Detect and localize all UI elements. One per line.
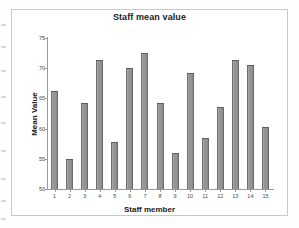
bar [187,73,194,189]
x-axis-tick-label: 8 [158,193,161,199]
bar [217,107,224,189]
figure-page: Staff mean value Mean Value 505560657075… [0,0,299,228]
x-axis-tick-label: 13 [232,193,238,199]
x-axis-tick-label: 9 [174,193,177,199]
bar [172,153,179,189]
plot-area: Mean Value 505560657075 [47,38,273,189]
scan-artifact [1,122,6,124]
x-axis-tick-mark [265,189,266,192]
x-axis-tick-label: 1 [53,193,56,199]
bar [81,103,88,189]
chart-title: Staff mean value [0,12,299,22]
x-axis-tick-label: 6 [128,193,131,199]
x-axis-tick-mark [190,189,191,192]
x-axis-tick-mark [115,189,116,192]
x-axis-tick-mark [70,189,71,192]
x-axis-label: Staff member [0,205,299,214]
scan-artifact [1,150,6,152]
bar [111,142,118,189]
bar [157,103,164,189]
x-axis-tick-mark [55,189,56,192]
scan-artifact [1,96,6,98]
y-axis-tick-mark [44,159,47,160]
x-axis-tick-label: 2 [68,193,71,199]
bar [247,65,254,189]
scan-artifact [1,24,6,26]
bar [262,127,269,189]
x-axis-tick-label: 7 [143,193,146,199]
bar [51,91,58,189]
x-axis-tick-mark [175,189,176,192]
scan-artifact [1,178,6,180]
x-axis-tick-label: 12 [217,193,223,199]
bar [126,68,133,189]
x-axis-tick-mark [220,189,221,192]
x-axis-tick-label: 5 [113,193,116,199]
x-axis-tick-label: 4 [98,193,101,199]
scan-artifact [1,218,6,220]
x-axis-tick-mark [85,189,86,192]
x-axis-tick-mark [145,189,146,192]
y-axis-tick-mark [44,98,47,99]
y-axis-tick-mark [44,68,47,69]
bar [141,53,148,189]
x-axis-tick-label: 14 [247,193,253,199]
x-axis-tick-mark [130,189,131,192]
bar [96,60,103,189]
x-axis-tick-mark [250,189,251,192]
bar [66,159,73,189]
scan-artifact [1,46,6,48]
bar [202,138,209,189]
scan-artifact [1,70,6,72]
y-axis-tick-mark [44,129,47,130]
x-axis-tick-mark [100,189,101,192]
scan-artifact [1,200,6,202]
x-axis-tick-mark [205,189,206,192]
x-axis-tick-label: 10 [187,193,193,199]
x-axis-tick-label: 15 [262,193,268,199]
y-axis-tick-mark [44,38,47,39]
x-axis-tick-mark [235,189,236,192]
x-axis-tick-mark [160,189,161,192]
x-axis-tick-label: 11 [202,193,208,199]
x-axis-tick-label: 3 [83,193,86,199]
bar [232,60,239,189]
y-axis-tick-mark [44,189,47,190]
